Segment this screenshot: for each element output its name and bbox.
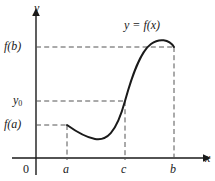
origin-label: 0 bbox=[23, 163, 29, 175]
x-axis-label: x bbox=[205, 152, 210, 164]
x-tick-label-a: a bbox=[63, 163, 69, 175]
x-tick-label-c: c bbox=[121, 163, 126, 175]
graph-canvas bbox=[0, 0, 215, 181]
y-tick-label-y0-subscript: 0 bbox=[18, 99, 22, 108]
y-tick-label-fb: f(b) bbox=[4, 40, 21, 52]
x-tick-label-b: b bbox=[170, 163, 176, 175]
curve-annotation-label: y = f(x) bbox=[124, 19, 160, 31]
y-axis-label: y bbox=[34, 2, 39, 14]
y-tick-label-fa: f(a) bbox=[4, 118, 21, 130]
function-curve bbox=[67, 40, 174, 139]
function-graph-figure: y x 0 a c b f(b) y0 f(a) y = f(x) bbox=[0, 0, 215, 181]
y-tick-label-y0: y0 bbox=[13, 94, 22, 108]
